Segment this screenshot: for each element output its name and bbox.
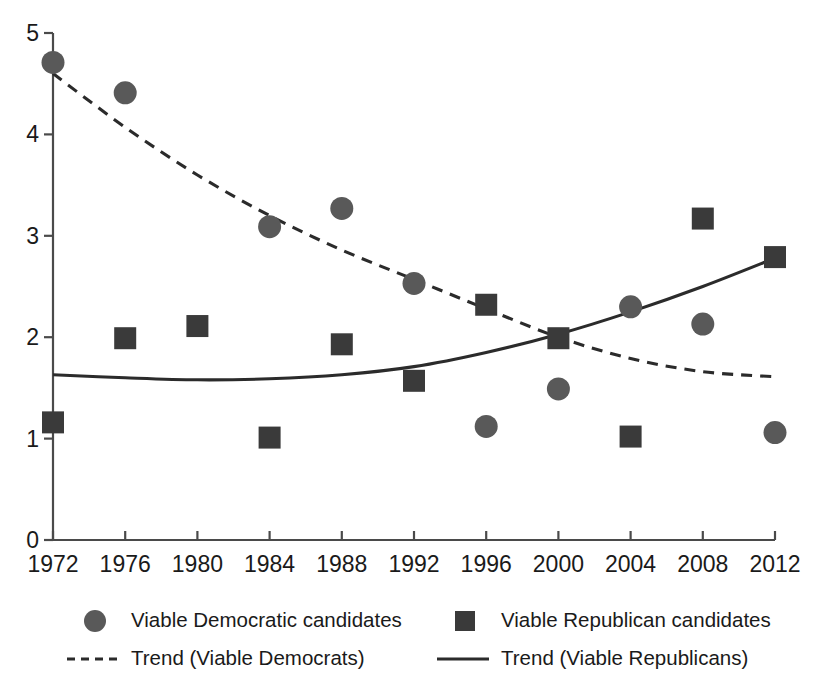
data-point-republican [186,315,208,337]
data-point-democrat [42,51,65,74]
data-point-republican [547,327,569,349]
legend-item-label: Viable Republican candidates [501,608,771,631]
data-point-republican [259,427,281,449]
data-point-democrat [475,415,498,438]
x-tick-label: 1988 [316,551,367,577]
y-tick-label: 0 [26,527,39,553]
data-points-republicans [42,208,786,449]
data-point-republican [331,333,353,355]
x-tick-label: 1976 [100,551,151,577]
data-point-republican [475,294,497,316]
data-point-democrat [114,81,137,104]
legend-square-icon [455,611,475,631]
x-tick-label: 1992 [388,551,439,577]
x-tick-label: 1984 [244,551,295,577]
chart-container: 012345 197219761980198419881992199620002… [0,0,828,677]
y-tick-label: 3 [26,223,39,249]
legend-item: Trend (Viable Democrats) [67,646,365,669]
x-tick-label: 2012 [749,551,800,577]
x-tick-label: 1980 [172,551,223,577]
legend-item-label: Trend (Viable Democrats) [131,646,365,669]
x-tick-label: 2008 [677,551,728,577]
legend-item-label: Trend (Viable Republicans) [501,646,748,669]
x-tick-label: 2000 [533,551,584,577]
data-point-republican [114,327,136,349]
data-point-democrat [547,377,570,400]
y-tick-label: 5 [26,20,39,46]
data-point-democrat [764,421,787,444]
trend-line-democrats [53,74,775,377]
x-axis-ticks: 1972197619801984198819921996200020042008… [27,531,800,577]
x-tick-label: 2004 [605,551,656,577]
data-point-democrat [403,272,426,295]
y-tick-label: 1 [26,426,39,452]
chart-legend: Viable Democratic candidatesViable Repub… [67,608,771,669]
y-axis-ticks: 012345 [26,20,53,553]
legend-item-label: Viable Democratic candidates [131,608,402,631]
data-point-republican [42,411,64,433]
data-point-republican [764,246,786,268]
y-tick-label: 4 [26,121,39,147]
data-point-democrat [619,295,642,318]
legend-circle-icon [84,610,106,632]
data-point-republican [620,426,642,448]
legend-item: Viable Democratic candidates [84,608,402,632]
data-point-republican [692,208,714,230]
legend-item: Viable Republican candidates [455,608,771,631]
legend-item: Trend (Viable Republicans) [437,646,748,669]
x-tick-label: 1972 [27,551,78,577]
data-point-democrat [330,197,353,220]
data-point-democrat [691,313,714,336]
data-point-democrat [258,215,281,238]
scatter-chart: 012345 197219761980198419881992199620002… [0,0,828,677]
y-tick-label: 2 [26,324,39,350]
data-point-republican [403,370,425,392]
x-tick-label: 1996 [461,551,512,577]
